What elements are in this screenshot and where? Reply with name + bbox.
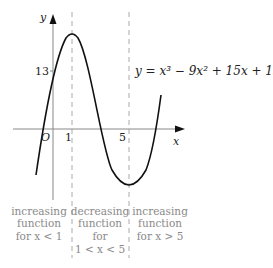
svg-text:for: for <box>92 230 108 242</box>
x-axis-arrow-icon <box>175 126 185 133</box>
region-increasing-left: increasing function for x < 1 <box>11 205 67 242</box>
svg-text:function: function <box>138 217 182 229</box>
svg-text:function: function <box>78 217 122 229</box>
y-axis-label: y <box>39 11 47 24</box>
x-axis-label: x <box>173 135 180 148</box>
svg-text:function: function <box>17 217 61 229</box>
svg-text:increasing: increasing <box>132 205 188 217</box>
x-tick-label-1: 1 <box>65 131 72 144</box>
y-axis-arrow-icon <box>50 14 57 24</box>
region-decreasing: decreasing function for 1 < x < 5 <box>71 205 130 255</box>
svg-text:for x < 1: for x < 1 <box>16 230 63 242</box>
cubic-function-diagram: y x O 1 5 13 y = x³ − 9x² + 15x + 13 inc… <box>0 0 273 268</box>
equation-label: y = x³ − 9x² + 15x + 13 <box>134 64 273 78</box>
origin-label: O <box>41 131 50 144</box>
svg-text:decreasing: decreasing <box>71 205 130 217</box>
svg-text:increasing: increasing <box>11 205 67 217</box>
svg-text:for x > 5: for x > 5 <box>137 230 184 242</box>
region-increasing-right: increasing function for x > 5 <box>132 205 188 242</box>
svg-text:1 < x < 5: 1 < x < 5 <box>75 243 125 255</box>
x-tick-label-5: 5 <box>119 131 126 144</box>
y-tick-label-13: 13 <box>35 65 49 78</box>
cubic-curve <box>36 34 161 185</box>
